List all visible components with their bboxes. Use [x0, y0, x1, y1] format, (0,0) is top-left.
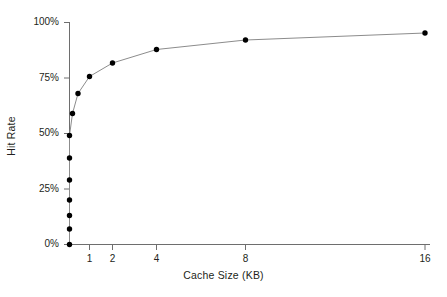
x-tick-label-2: 2 — [98, 253, 128, 264]
data-line — [70, 33, 426, 245]
x-tick-label-16: 16 — [410, 253, 440, 264]
chart-plot-area — [0, 0, 447, 297]
y-tick-label-50: 50% — [17, 127, 59, 138]
y-tick-label-75: 75% — [17, 72, 59, 83]
x-axis-ticks — [90, 245, 426, 251]
y-tick-label-100: 100% — [17, 16, 59, 27]
x-tick-label-8: 8 — [231, 253, 261, 264]
y-tick-label-25: 25% — [17, 183, 59, 194]
chart-container: 100% 75% 50% 25% 0% 1 2 4 8 16 Cache Siz… — [0, 0, 447, 297]
data-point-markers — [67, 30, 428, 247]
y-tick-label-0: 0% — [17, 238, 59, 249]
y-axis-title: Hit Rate — [5, 101, 17, 171]
x-tick-label-4: 4 — [142, 253, 172, 264]
x-axis-title: Cache Size (KB) — [0, 269, 447, 281]
